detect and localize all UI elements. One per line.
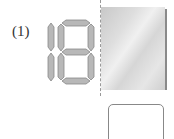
seven-segment-display (44, 19, 96, 85)
mirror (101, 7, 165, 90)
segment-8-a (62, 20, 90, 26)
segment-1-c (48, 53, 54, 81)
segment-8-d (62, 78, 90, 84)
segment-8-f (58, 24, 64, 51)
problem-label: (1) (12, 23, 30, 40)
segment-8-b (88, 24, 94, 51)
segment-8-e (58, 53, 64, 80)
segment-1-b (48, 23, 54, 51)
answer-box[interactable] (108, 104, 164, 139)
segment-8-g (62, 49, 90, 55)
mirror-edge (165, 9, 167, 90)
segment-8-c (88, 53, 94, 80)
